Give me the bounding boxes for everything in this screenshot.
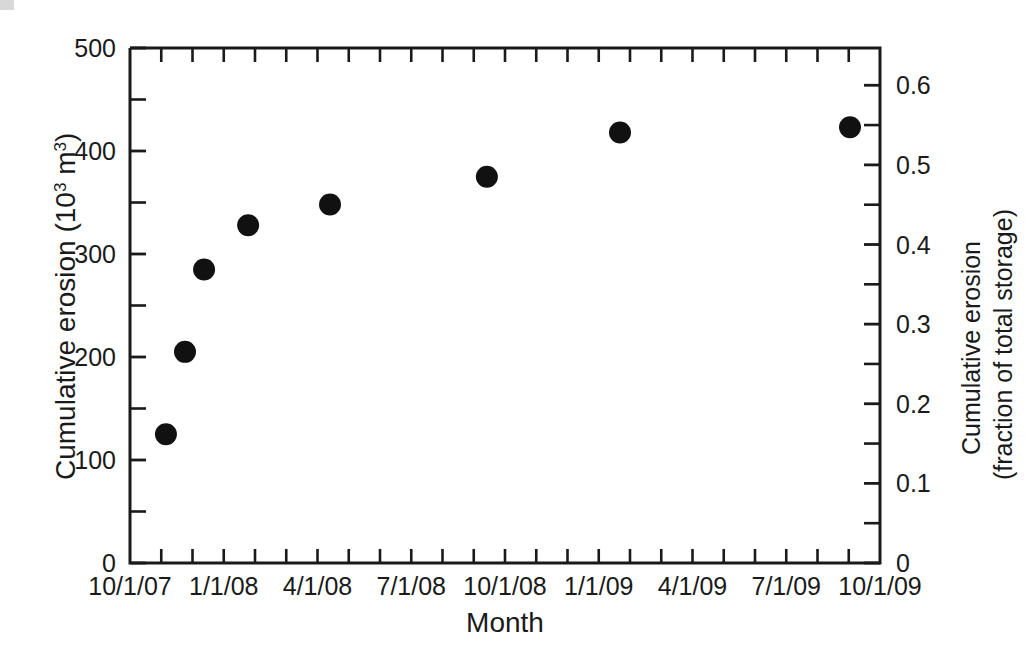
y2-tick-label: 0.2 [896,390,931,418]
x-tick-label: 1/1/08 [189,572,259,600]
right-axis-ticks [864,85,880,563]
data-point [237,214,259,236]
x-tick-label: 10/1/07 [88,572,171,600]
x-tick-label: 7/1/08 [376,572,446,600]
right-axis-tick-labels: 00.10.20.30.40.50.6 [896,71,931,577]
data-point [174,341,196,363]
left-axis-title: Cumulative erosion (103 m3) [50,133,81,480]
data-point [839,116,861,138]
x-tick-label: 4/1/08 [283,572,353,600]
left-axis-title-close-paren: ) [50,133,81,142]
plot-frame [130,48,880,563]
data-point [193,258,215,280]
scatter-chart: 0100200300400500 00.10.20.30.40.50.6 10/… [0,0,1036,657]
right-axis-title-line1: Cumulative erosion [957,241,985,455]
x-tick-label: 4/1/09 [658,572,728,600]
right-axis-title-line2: (fraction of total storage) [989,209,1017,480]
bottom-axis-ticks [161,549,849,563]
x-axis-tick-labels: 10/1/071/1/084/1/087/1/0810/1/081/1/094/… [88,572,921,600]
left-axis-title-unit: m [50,152,81,183]
top-axis-ticks [161,48,849,62]
right-axis-title: Cumulative erosion (fraction of total st… [957,209,1017,480]
x-axis-title: Month [466,607,544,638]
y2-tick-label: 0.6 [896,71,931,99]
y-tick-label: 500 [74,34,116,62]
left-axis-title-exponent: 3 [51,183,70,192]
svg-text:Cumulative erosion (103 m3): Cumulative erosion (103 m3) [50,133,81,480]
left-axis-title-exponent-2: 3 [51,142,70,151]
data-point [476,166,498,188]
y2-tick-label: 0.3 [896,310,931,338]
data-series-points [155,116,861,445]
x-tick-label: 1/1/09 [564,572,634,600]
x-tick-label: 10/1/09 [838,572,921,600]
y2-tick-label: 0.1 [896,469,931,497]
left-axis-ticks [130,48,146,563]
y2-tick-label: 0.5 [896,151,931,179]
left-axis-title-main: Cumulative erosion (10 [50,192,81,480]
x-tick-label: 10/1/08 [463,572,546,600]
figure-container: 0100200300400500 00.10.20.30.40.50.6 10/… [0,0,1036,657]
x-tick-label: 7/1/09 [751,572,821,600]
axis-frame-lines [130,48,880,563]
data-point [609,121,631,143]
y2-tick-label: 0.4 [896,231,931,259]
data-point [319,194,341,216]
data-point [155,423,177,445]
